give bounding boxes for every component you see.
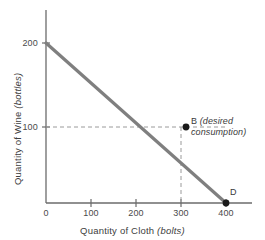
point-b-name: B [191,116,197,126]
x-tick-label-100: 100 [83,208,99,218]
x-axis-title: Quantity of Cloth (bolts) [0,225,265,236]
point-b-note: (desired consumption) [191,116,246,137]
y-axis-title: Quantity of Wine (bottles) [12,73,23,185]
x-axis-title-unit: (bolts) [157,225,185,236]
x-axis-title-main: Quantity of Cloth [80,225,154,236]
y-axis-title-main: Quantity of Wine [12,112,23,185]
point-b-annotation: B (desired consumption) [191,116,265,138]
x-tick-label-0: 0 [43,208,48,218]
point-b-marker [183,124,190,131]
x-tick-label-300: 300 [173,208,189,218]
chart-figure: 200 100 0 100 200 300 400 B (desired con… [0,0,265,240]
point-d-annotation: D [230,187,237,197]
y-axis-title-unit: (bottles) [12,73,23,109]
y-tick-label-200: 200 [12,38,38,48]
x-tick-label-400: 400 [218,208,234,218]
x-tick-label-200: 200 [128,208,144,218]
point-d-marker [223,200,230,207]
